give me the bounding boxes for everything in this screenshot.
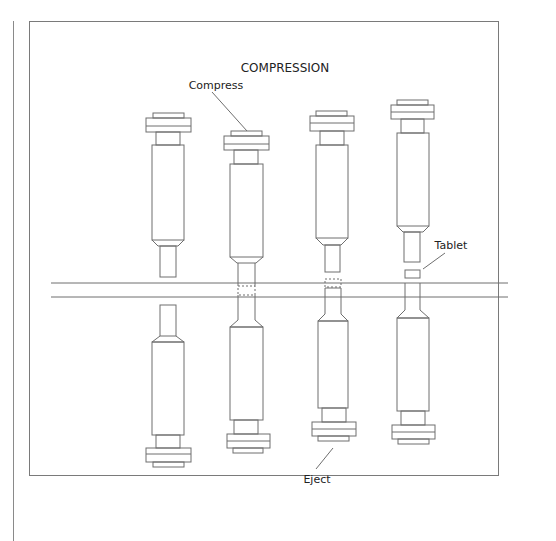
stage-4-lower-punch	[392, 283, 435, 444]
stage-3-upper-punch	[310, 111, 354, 272]
stage-4-ejected-tablet	[405, 270, 420, 278]
eject-leader-line	[316, 448, 333, 469]
eject-label: Eject	[303, 473, 331, 486]
tablet-label: Tablet	[434, 239, 468, 252]
compress-leader-line	[212, 92, 247, 131]
stage-2-upper-punch	[224, 131, 269, 286]
stage-2-lower-punch	[227, 295, 270, 453]
stage-3-lower-punch	[312, 288, 356, 441]
stage-2-tablet-in-die	[238, 286, 255, 295]
compression-diagram: COMPRESSION Compress Tablet Eject	[0, 0, 556, 541]
stage-1-upper-punch	[146, 113, 191, 277]
stage-4-upper-punch	[391, 100, 434, 262]
diagram-title: COMPRESSION	[241, 61, 330, 75]
compress-label: Compress	[189, 79, 244, 92]
stage-1-lower-punch	[146, 305, 191, 467]
tablet-leader-line	[423, 253, 445, 269]
die-table-rails	[51, 283, 508, 297]
